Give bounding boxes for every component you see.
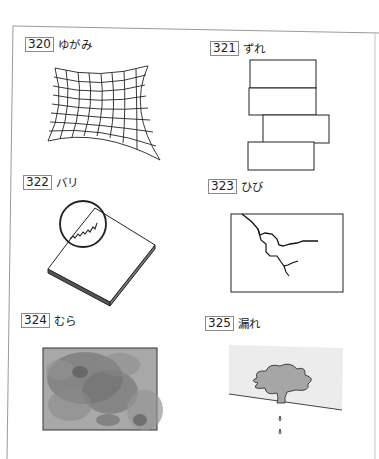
item-number: 324 xyxy=(21,313,50,328)
block-3 xyxy=(263,115,329,143)
item-number: 321 xyxy=(210,41,239,56)
item-324-label: 324 むら xyxy=(21,313,77,328)
item-term: ゆがみ xyxy=(58,38,93,52)
item-number: 322 xyxy=(23,175,52,190)
page-frame xyxy=(0,0,379,459)
drop-2 xyxy=(279,429,281,434)
item-term: ずれ xyxy=(243,42,266,56)
item-term: バリ xyxy=(56,176,79,190)
item-325-label: 325 漏れ xyxy=(205,316,261,331)
uneven-panel-illustration xyxy=(43,348,163,430)
item-321-label: 321 ずれ xyxy=(210,41,266,56)
item-320-label: 320 ゆがみ xyxy=(25,37,92,52)
item-322-label: 322 バリ xyxy=(23,175,79,190)
item-term: ひび xyxy=(241,180,264,194)
item-term: 漏れ xyxy=(238,317,261,331)
offset-blocks-illustration xyxy=(248,60,329,170)
block-1 xyxy=(250,60,316,88)
block-2 xyxy=(249,88,316,115)
leak-illustration xyxy=(229,345,343,434)
item-number: 323 xyxy=(208,179,237,194)
burr-slab-illustration xyxy=(48,201,155,306)
item-number: 325 xyxy=(205,316,234,331)
item-323-label: 323 ひび xyxy=(208,179,264,194)
cracked-panel-illustration xyxy=(231,214,343,292)
item-number: 320 xyxy=(25,37,54,52)
warped-grid-illustration xyxy=(48,66,160,160)
block-4 xyxy=(248,142,314,170)
item-term: むら xyxy=(54,314,77,328)
drop-1 xyxy=(279,416,281,421)
